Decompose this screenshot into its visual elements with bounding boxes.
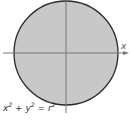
eq-equals: =	[37, 103, 45, 113]
x-axis-label: x	[121, 41, 126, 51]
eq-x-exp: 2	[8, 101, 12, 108]
x-axis-arrow-icon	[123, 51, 129, 55]
circle-equation: x2 + y2 = r2	[3, 101, 55, 113]
eq-plus: +	[15, 103, 23, 113]
eq-r-exp: 2	[52, 101, 56, 108]
eq-y-exp: 2	[31, 101, 35, 108]
circle-diagram	[0, 0, 130, 140]
